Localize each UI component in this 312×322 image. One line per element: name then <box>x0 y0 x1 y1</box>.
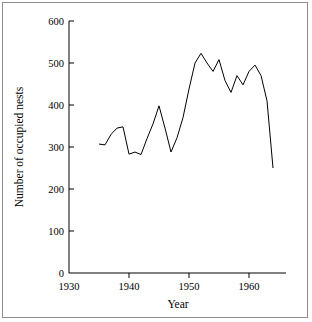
y-tick-label-100: 100 <box>48 226 64 237</box>
y-tick-label-300: 300 <box>48 142 64 153</box>
x-tick-label-1930: 1930 <box>59 281 80 292</box>
y-tick-label-500: 500 <box>48 58 64 69</box>
x-tick-label-1960: 1960 <box>239 281 260 292</box>
x-tick-label-1940: 1940 <box>119 281 140 292</box>
x-axis-title: Year <box>167 298 188 310</box>
x-tick-label-1950: 1950 <box>179 281 200 292</box>
line-chart: 600 500 400 300 200 100 0 1930 1940 1950… <box>0 0 312 322</box>
y-tick-label-200: 200 <box>48 184 64 195</box>
y-tick-label-400: 400 <box>48 100 64 111</box>
data-series-line <box>99 53 273 168</box>
chart-figure: 600 500 400 300 200 100 0 1930 1940 1950… <box>0 0 312 322</box>
y-tick-label-600: 600 <box>48 16 64 27</box>
y-axis-title: Number of occupied nests <box>13 86 26 207</box>
y-tick-label-0: 0 <box>59 268 64 279</box>
